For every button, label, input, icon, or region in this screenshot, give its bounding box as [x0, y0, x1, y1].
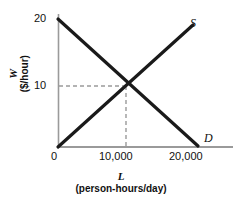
origin-tick-label: 0 [51, 151, 57, 162]
y-axis-title-symbol: W [7, 32, 19, 116]
demand-curve-label: D [204, 132, 213, 144]
x-axis-tick-label-20000: 20,000 [169, 151, 203, 162]
x-axis-tick-label-10000: 10,000 [99, 151, 133, 162]
y-axis-title: W ($/hour) [7, 32, 31, 116]
x-axis-title-symbol: L [0, 170, 242, 183]
y-axis-title-units: ($/hour) [20, 32, 31, 116]
x-axis-title: L (person-hours/day) [0, 170, 242, 195]
y-axis-tick-label-10: 10 [34, 80, 46, 91]
labor-market-supply-demand-chart: 20 10 0 10,000 20,000 S D W ($/hour) L (… [0, 0, 242, 204]
x-axis-title-units: (person-hours/day) [0, 183, 242, 195]
y-axis-tick-label-20: 20 [34, 13, 46, 24]
supply-curve-label: S [190, 17, 196, 29]
